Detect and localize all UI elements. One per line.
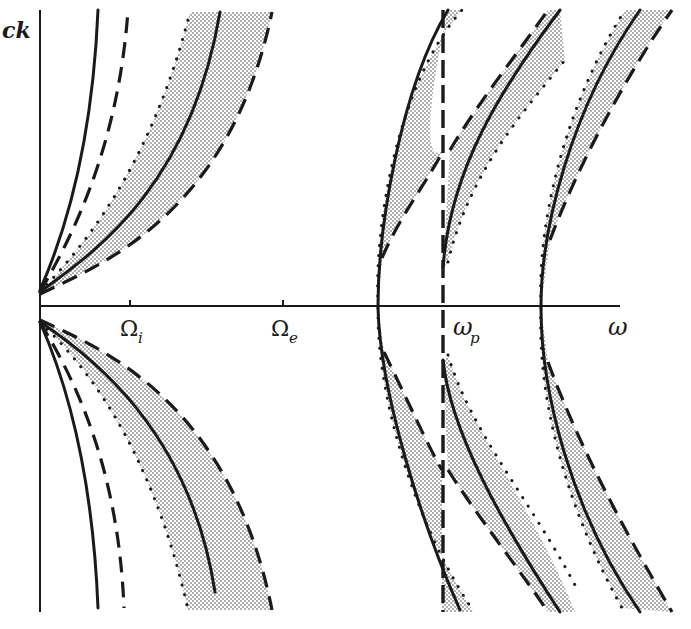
- shaded-bands: [40, 10, 672, 612]
- x-axis-label: ω: [608, 313, 628, 341]
- svg-text:e: e: [289, 329, 298, 347]
- svg-text:p: p: [470, 329, 480, 347]
- tick-label-omega-e: Ω e: [271, 316, 298, 347]
- dispersion-diagram: ck ω Ω i Ω e ω p: [0, 0, 691, 629]
- axes: [40, 10, 620, 612]
- shaded-band: [40, 12, 272, 294]
- tick-label-omega-i: Ω i: [120, 316, 143, 347]
- svg-text:i: i: [138, 329, 143, 347]
- y-axis-label: ck: [2, 17, 31, 43]
- shaded-band: [541, 308, 672, 612]
- curves: [40, 10, 672, 612]
- svg-text:Ω: Ω: [271, 316, 289, 341]
- svg-text:Ω: Ω: [120, 316, 138, 341]
- tick-label-omega-p: ω p: [453, 313, 480, 347]
- shaded-band: [40, 320, 272, 610]
